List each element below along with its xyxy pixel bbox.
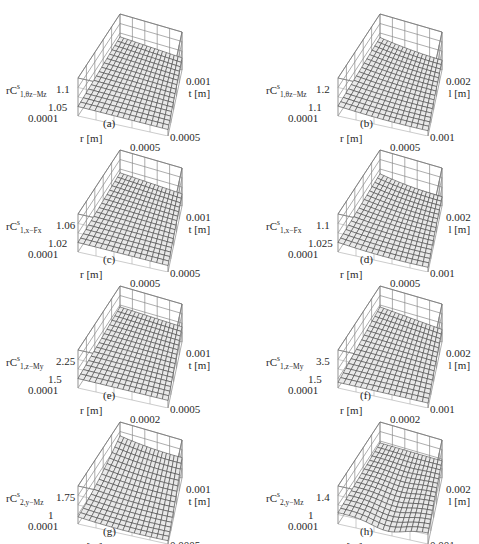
t-axis-label: l [m] — [448, 496, 470, 507]
t-axis-label: l [m] — [448, 360, 470, 371]
panel-g: rCs2,y−Mz1.7510.0001r [m]0.00020.0005t [… — [0, 408, 239, 544]
z-axis-label: rCs1,z−My — [266, 353, 304, 372]
z-axis-label: rCs1,θz−Mz — [6, 81, 47, 100]
r-tick-start: 0.0001 — [28, 113, 58, 124]
panel-e: rCs1,z−My2.251.50.0001r [m]0.00020.0005t… — [0, 272, 239, 408]
t-tick-end: 0.002 — [446, 484, 471, 495]
t-axis-label: t [m] — [188, 224, 210, 235]
panel-caption: (b) — [360, 117, 373, 129]
panel-d: rCs1,x−Fx1.11.0250.0001r [m]0.00050.001l… — [240, 136, 479, 272]
panel-caption: (e) — [103, 389, 115, 401]
r-tick-start: 0.0001 — [28, 385, 58, 396]
panel-caption: (f) — [360, 389, 371, 401]
panel-caption: (g) — [103, 525, 116, 537]
panel-caption: (a) — [103, 117, 115, 129]
panel-caption: (c) — [103, 253, 115, 265]
z-axis-label: rCs1,z−My — [6, 353, 44, 372]
z-axis-label: rCs1,x−Fx — [6, 217, 41, 236]
t-tick-end: 0.001 — [186, 348, 211, 359]
panel-a: rCs1,θz−Mz1.11.050.0001r [m]0.00050.0005… — [0, 0, 239, 136]
t-tick-end: 0.001 — [186, 212, 211, 223]
panel-f: rCs1,z−My3.51.50.0001r [m]0.00020.001l [… — [240, 272, 479, 408]
panel-b: rCs1,θz−Mz1.21.10.0001r [m]0.00050.001l … — [240, 0, 479, 136]
z-tick-top: 1.06 — [56, 220, 75, 231]
t-tick-end: 0.002 — [446, 348, 471, 359]
z-tick-top: 1.75 — [56, 492, 75, 503]
z-axis-label: rCs2,y−Mz — [6, 489, 44, 508]
t-axis-label: t [m] — [188, 360, 210, 371]
r-tick-start: 0.0001 — [28, 249, 58, 260]
r-tick-start: 0.0001 — [288, 521, 318, 532]
z-tick-top: 1.1 — [316, 220, 330, 231]
z-tick-top: 3.5 — [316, 356, 330, 367]
t-tick-end: 0.001 — [186, 76, 211, 87]
z-tick-top: 2.25 — [56, 356, 75, 367]
panel-h: rCs2,y−Mz1.410.0001r [m]0.000150.001l [m… — [240, 408, 479, 544]
surface-plot-d — [240, 136, 479, 272]
t-tick-end: 0.001 — [186, 484, 211, 495]
surface-plot-h — [240, 408, 479, 544]
t-tick-start: 0.001 — [430, 540, 455, 544]
z-tick-top: 1.1 — [56, 84, 70, 95]
r-tick-start: 0.0001 — [288, 249, 318, 260]
t-tick-end: 0.002 — [446, 212, 471, 223]
z-axis-label: rCs2,y−Mz — [266, 489, 304, 508]
surface-plot-f — [240, 272, 479, 408]
r-tick-start: 0.0001 — [28, 521, 58, 532]
z-tick-top: 1.4 — [316, 492, 330, 503]
t-axis-label: l [m] — [448, 224, 470, 235]
z-tick-top: 1.2 — [316, 84, 330, 95]
t-axis-label: t [m] — [188, 88, 210, 99]
panel-caption: (h) — [360, 525, 373, 537]
r-tick-start: 0.0001 — [288, 385, 318, 396]
z-axis-label: rCs1,x−Fx — [266, 217, 301, 236]
t-tick-end: 0.002 — [446, 76, 471, 87]
z-axis-label: rCs1,θz−Mz — [266, 81, 307, 100]
panel-caption: (d) — [360, 253, 373, 265]
t-axis-label: l [m] — [448, 88, 470, 99]
surface-plot-b — [240, 0, 479, 136]
panel-c: rCs1,x−Fx1.061.020.0001r [m]0.00050.0005… — [0, 136, 239, 272]
t-tick-start: 0.0005 — [170, 540, 200, 544]
r-tick-start: 0.0001 — [288, 113, 318, 124]
t-axis-label: t [m] — [188, 496, 210, 507]
